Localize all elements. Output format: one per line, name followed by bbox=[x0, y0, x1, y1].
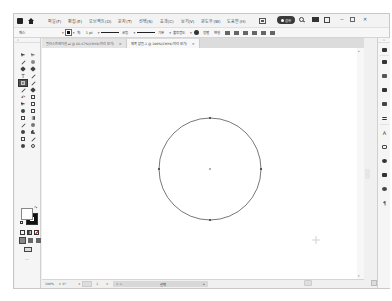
fill-swatch[interactable] bbox=[66, 30, 71, 35]
draw-behind-button[interactable] bbox=[28, 238, 33, 243]
fill-color-box[interactable] bbox=[21, 208, 33, 220]
perspective-grid-tool[interactable] bbox=[29, 108, 37, 114]
artboard-dropdown[interactable]: ▾ bbox=[106, 282, 108, 286]
opacity-label[interactable]: 불투명도 bbox=[173, 30, 185, 35]
anchor-point-left[interactable] bbox=[158, 168, 160, 170]
tab-illustration[interactable]: 일러스트레이션.ai @ 66.67%(CMYK/미리 보기) × bbox=[42, 39, 127, 48]
status-nav-arrows[interactable]: < > bbox=[116, 282, 122, 286]
angle-dropdown[interactable]: ▾ bbox=[79, 282, 81, 286]
magic-wand-tool[interactable] bbox=[19, 59, 27, 65]
brush-preview[interactable] bbox=[137, 32, 155, 33]
gradient-mode-button[interactable] bbox=[27, 230, 32, 235]
slice-tool[interactable] bbox=[29, 136, 37, 142]
menu-edit[interactable]: 편집(E) bbox=[68, 18, 82, 24]
brushes-panel-icon[interactable] bbox=[381, 101, 388, 107]
menu-object[interactable]: 오브젝트(O) bbox=[89, 18, 111, 24]
draw-inside-button[interactable] bbox=[36, 238, 41, 243]
zoom-level-field[interactable]: 100% bbox=[45, 282, 59, 286]
search-icon[interactable] bbox=[299, 17, 304, 22]
share-button[interactable]: 공유 bbox=[277, 16, 295, 24]
home-icon[interactable] bbox=[28, 18, 34, 24]
pen-tool[interactable] bbox=[19, 66, 27, 72]
panel-toggle-icon[interactable] bbox=[324, 17, 330, 23]
tab-untitled[interactable]: 제목 없음-1 @ 100%(CMYK/미리 보기) × bbox=[127, 39, 200, 48]
gradient-tool[interactable] bbox=[29, 115, 37, 121]
menu-window[interactable]: 윈도우(W) bbox=[201, 18, 220, 24]
anchor-point-bottom[interactable] bbox=[209, 219, 211, 221]
maximize-button[interactable] bbox=[350, 17, 355, 22]
menu-type[interactable]: 문자(T) bbox=[118, 18, 132, 24]
grid-icon[interactable] bbox=[252, 31, 257, 35]
width-tool[interactable] bbox=[19, 101, 27, 107]
stroke-weight-field[interactable]: 1 pt bbox=[86, 31, 93, 35]
close-tab-icon[interactable]: × bbox=[192, 42, 195, 46]
color-mode-button[interactable] bbox=[20, 230, 25, 235]
screen-mode-button[interactable] bbox=[24, 247, 32, 252]
stroke-dropdown[interactable]: ▾ bbox=[73, 31, 75, 35]
layers-panel-icon[interactable] bbox=[381, 59, 388, 65]
menu-effect[interactable]: 효과(C) bbox=[160, 18, 174, 24]
close-tab-icon[interactable]: × bbox=[119, 42, 122, 46]
scroll-up-icon[interactable]: ▴ bbox=[358, 49, 360, 53]
close-window-button[interactable]: ✕ bbox=[361, 16, 369, 23]
symbol-sprayer-tool[interactable] bbox=[19, 129, 27, 135]
minimize-button[interactable]: ─ bbox=[338, 16, 346, 23]
menu-file[interactable]: 파일(F) bbox=[48, 18, 61, 24]
rotation-angle-field[interactable]: 0° bbox=[63, 282, 79, 286]
stroke-style-dropdown[interactable]: ▾ bbox=[133, 31, 135, 35]
properties-panel-icon[interactable] bbox=[381, 47, 388, 53]
shape-builder-tool[interactable] bbox=[19, 108, 27, 114]
artboard-tool[interactable] bbox=[19, 136, 27, 142]
blend-tool[interactable] bbox=[29, 122, 37, 128]
align-label[interactable]: 정렬 bbox=[203, 30, 209, 35]
line-segment-tool[interactable] bbox=[29, 73, 37, 79]
stroke-profile-preview[interactable] bbox=[101, 32, 119, 33]
anchor-point-top[interactable] bbox=[209, 117, 211, 119]
eyedropper-tool[interactable] bbox=[19, 122, 27, 128]
stroke-weight-dropdown[interactable]: ▾ bbox=[98, 31, 100, 35]
artboard[interactable] bbox=[42, 48, 364, 279]
swatches-panel-icon[interactable] bbox=[381, 87, 388, 93]
menu-view[interactable]: 보기(V) bbox=[181, 18, 195, 24]
isolate-icon[interactable] bbox=[225, 31, 230, 35]
type-tool[interactable]: T bbox=[19, 73, 27, 79]
artboard-nav-buttons[interactable] bbox=[82, 281, 92, 287]
distribute-icon[interactable] bbox=[243, 31, 248, 35]
default-colors-icon[interactable] bbox=[20, 221, 23, 224]
fill-dropdown[interactable]: ▾ bbox=[62, 31, 64, 35]
horizontal-scrollbar-thumb[interactable] bbox=[304, 280, 312, 286]
pathfinder-panel-icon[interactable] bbox=[381, 186, 388, 192]
menu-help[interactable]: 도움말(H) bbox=[227, 18, 245, 24]
workspace-switcher-icon[interactable] bbox=[312, 17, 319, 22]
character-panel-icon[interactable]: A bbox=[381, 130, 388, 136]
dock-scroll-handle[interactable] bbox=[365, 169, 370, 179]
status-info-field[interactable]: < > 선택 ▸ bbox=[113, 281, 208, 287]
mesh-tool[interactable] bbox=[19, 115, 27, 121]
align-options-icon[interactable] bbox=[234, 31, 239, 35]
paintbrush-tool[interactable] bbox=[29, 80, 37, 86]
canvas[interactable] bbox=[42, 48, 364, 279]
rotate-tool[interactable]: ↶ bbox=[19, 94, 27, 100]
stroke-panel-icon[interactable] bbox=[381, 115, 388, 121]
free-transform-tool[interactable] bbox=[29, 101, 37, 107]
control-menu-icon[interactable] bbox=[270, 31, 275, 35]
appearance-panel-icon[interactable] bbox=[381, 158, 388, 164]
transform-label[interactable]: 변형 bbox=[214, 30, 220, 35]
zoom-tool[interactable] bbox=[29, 143, 37, 149]
path-options-icon[interactable] bbox=[261, 31, 266, 35]
ellipse-tool[interactable] bbox=[19, 80, 27, 86]
toolbox-collapse[interactable]: « bbox=[15, 38, 40, 43]
brush-dropdown[interactable]: ▾ bbox=[169, 31, 171, 35]
draw-normal-button[interactable] bbox=[20, 238, 25, 243]
anchor-point-right[interactable] bbox=[260, 168, 262, 170]
edit-toolbar-button[interactable]: ··· bbox=[25, 257, 29, 262]
scroll-down-icon[interactable]: ▾ bbox=[358, 274, 360, 278]
dock-collapse[interactable]: » bbox=[378, 38, 390, 43]
lasso-tool[interactable] bbox=[29, 59, 37, 65]
hand-tool[interactable] bbox=[19, 143, 27, 149]
none-mode-button[interactable] bbox=[34, 230, 39, 235]
vertical-scrollbar[interactable]: ▴ ▾ bbox=[357, 48, 364, 279]
stroke-style-label[interactable]: 균등 bbox=[122, 30, 128, 35]
zoom-dropdown[interactable]: ▾ bbox=[59, 282, 61, 286]
direct-selection-tool[interactable] bbox=[29, 52, 37, 58]
